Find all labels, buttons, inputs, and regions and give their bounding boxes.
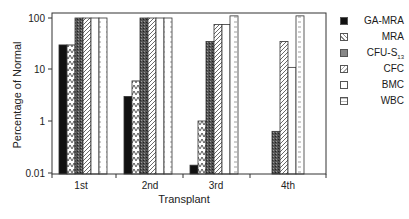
bar-bmc-1st (91, 18, 99, 174)
bar-cfc-1st (83, 18, 91, 174)
bar-cfc-2nd (148, 18, 156, 174)
legend-label: CFU-S13 (367, 47, 404, 60)
bar-cfu-s13-2nd (140, 18, 148, 174)
bar-mra-1st (67, 45, 75, 174)
legend-swatch-icon (340, 81, 348, 89)
y-axis-title: Percentage of Normal (11, 42, 23, 149)
y-tick-label: 0.01 (26, 168, 46, 179)
legend-item: BMC (338, 78, 408, 94)
legend-swatch-icon (340, 65, 348, 73)
legend-swatch-icon (340, 49, 348, 57)
bar-wbc-3rd (230, 16, 238, 174)
legend-swatch-icon (340, 97, 348, 105)
bar-wbc-2nd (164, 18, 172, 174)
bar-cfu-s13-4th (272, 131, 280, 174)
bar-bmc-2nd (156, 18, 164, 174)
legend-label: GA-MRA (364, 15, 404, 26)
bar-bmc-4th (288, 67, 296, 174)
x-axis-title: Transplant (158, 193, 210, 205)
legend: GA-MRAMRACFU-S13CFCBMCWBC (338, 14, 408, 110)
bar-mra-2nd (132, 81, 140, 174)
y-tick-label: 100 (28, 13, 45, 24)
bar-wbc-1st (99, 18, 107, 174)
bar-bmc-3rd (222, 24, 230, 174)
bars-layer (59, 16, 304, 174)
legend-item: GA-MRA (338, 14, 408, 30)
bar-cfc-4th (280, 41, 288, 174)
legend-label: CFC (383, 63, 404, 74)
bar-cfu-s13-3rd (206, 41, 214, 174)
x-tick-label: 3rd (209, 180, 223, 191)
y-tick-label: 1 (39, 116, 45, 127)
legend-label: WBC (381, 95, 404, 106)
legend-item: CFU-S13 (338, 46, 408, 62)
x-tick-label: 1st (74, 180, 88, 191)
legend-item: MRA (338, 30, 408, 46)
legend-item: WBC (338, 94, 408, 110)
y-tick-label: 10 (34, 64, 46, 75)
bar-ga-mra-3rd (190, 165, 198, 174)
bar-cfc-3rd (214, 24, 222, 174)
bar-wbc-4th (296, 16, 304, 174)
bar-mra-3rd (198, 121, 206, 174)
legend-label: MRA (382, 31, 404, 42)
bar-ga-mra-2nd (124, 96, 132, 174)
legend-item: CFC (338, 62, 408, 78)
legend-swatch-icon (340, 17, 348, 25)
bar-cfu-s13-1st (75, 18, 83, 174)
x-tick-label: 2nd (142, 180, 159, 191)
x-tick-label: 4th (281, 180, 295, 191)
bar-ga-mra-1st (59, 45, 67, 174)
legend-swatch-icon (340, 33, 348, 41)
legend-label: BMC (382, 79, 404, 90)
